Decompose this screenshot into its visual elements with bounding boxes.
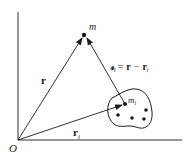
vector-ri bbox=[18, 105, 122, 140]
mass-particle bbox=[144, 108, 148, 112]
point-m-label: m bbox=[89, 21, 96, 32]
vector-ri-label: ri bbox=[73, 126, 80, 141]
point-mi bbox=[123, 102, 127, 106]
relation-equation: 𝓇i=r−ri bbox=[110, 61, 149, 73]
origin-label: O bbox=[9, 142, 17, 154]
mass-particle bbox=[130, 116, 134, 120]
vector-r-label: r bbox=[41, 74, 46, 86]
point-m bbox=[82, 33, 86, 37]
vector-r bbox=[18, 38, 82, 140]
point-mi-label: mi bbox=[128, 95, 137, 106]
mass-particle bbox=[142, 117, 146, 121]
vector-diagram: O m r ri mi 𝓇i=r−ri bbox=[0, 0, 190, 160]
mass-particle bbox=[116, 113, 120, 117]
